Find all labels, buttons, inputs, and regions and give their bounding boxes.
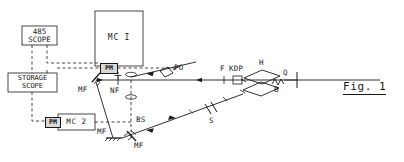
beam-arrow-diagonal-right [168, 115, 176, 120]
label-485-scope-line2: SCOPE [28, 36, 51, 44]
label-h: H [259, 59, 264, 67]
beam-arrow-main-right [196, 78, 202, 82]
label-mf-upper: MF [78, 86, 87, 94]
label-mf-lower-left: MF [97, 128, 106, 136]
label-b-text: B [274, 85, 279, 94]
pm-chip-mc1: PM [100, 63, 118, 74]
pm-chip-mc2-label: PM [49, 119, 57, 126]
label-mf-upper-text: MF [78, 85, 87, 94]
label-kdp: KDP [229, 65, 243, 73]
label-mc-1-text: MC I [108, 34, 130, 42]
label-q: Q [283, 69, 288, 77]
label-po-text: PO [174, 63, 183, 72]
label-storage-scope: STORAGE SCOPE [8, 73, 57, 92]
pm-chip-mc2: PM [45, 117, 61, 128]
label-f-text: F [220, 64, 225, 73]
label-mc-1: MC I [95, 11, 143, 66]
figure-caption: Fig. 1 [343, 80, 386, 95]
label-nf-text: NF [110, 86, 119, 95]
label-kdp-text: KDP [229, 64, 243, 73]
label-q-text: Q [283, 68, 288, 77]
label-f: F [220, 65, 225, 73]
label-storage-scope-line2: SCOPE [22, 83, 43, 90]
label-mf-lower-right: MF [134, 142, 143, 150]
label-bs-text: BS [136, 115, 145, 124]
label-mf-lower-left-text: MF [97, 127, 106, 136]
label-mc-2: MC 2 [58, 114, 95, 130]
label-mf-lower-right-text: MF [134, 141, 143, 150]
label-po: PO [174, 64, 183, 72]
cable-485-to-pm-mc1 [47, 45, 100, 63]
label-nf: NF [110, 87, 119, 95]
cable-storage-to-pm-mc2 [32, 92, 45, 121]
label-bs: BS [136, 116, 145, 124]
label-s-text: S [209, 116, 214, 125]
figure-canvas: 485 SCOPE STORAGE SCOPE MC I MC 2 PM PM … [0, 0, 404, 162]
label-b: B [274, 86, 279, 94]
beam-arrow-to-mf-upper [97, 78, 103, 82]
label-mc-2-text: MC 2 [66, 118, 86, 126]
pm-chip-mc1-label: PM [105, 65, 113, 72]
label-h-text: H [259, 58, 264, 67]
label-s: S [209, 117, 214, 125]
label-485-scope: 485 SCOPE [22, 26, 57, 45]
